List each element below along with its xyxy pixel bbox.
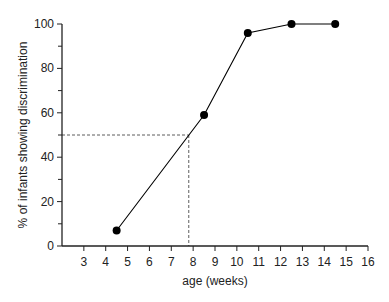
data-point-marker (288, 20, 296, 28)
y-tick-label: 40 (41, 150, 55, 164)
axes: 020406080100345678910111213141516 (34, 17, 375, 269)
y-tick-label: 80 (41, 61, 55, 75)
x-tick-label: 6 (146, 255, 153, 269)
x-tick-label: 12 (274, 255, 288, 269)
data-point-marker (244, 29, 252, 37)
data-point-marker (113, 226, 121, 234)
x-tick-label: 9 (212, 255, 219, 269)
x-tick-label: 13 (296, 255, 310, 269)
x-tick-label: 14 (318, 255, 332, 269)
x-axis-title: age (weeks) (182, 274, 247, 288)
threshold-guides (62, 135, 189, 246)
x-tick-label: 16 (361, 255, 375, 269)
series-line (117, 24, 336, 230)
data-point-marker (200, 111, 208, 119)
x-tick-label: 8 (190, 255, 197, 269)
x-tick-label: 11 (252, 255, 265, 269)
line-chart: 020406080100345678910111213141516 age (w… (0, 0, 389, 302)
x-tick-label: 5 (124, 255, 131, 269)
x-tick-label: 4 (102, 255, 109, 269)
x-tick-label: 7 (168, 255, 175, 269)
x-tick-label: 3 (81, 255, 88, 269)
y-tick-label: 20 (41, 195, 55, 209)
data-series (113, 20, 340, 234)
x-tick-label: 15 (339, 255, 353, 269)
x-tick-label: 10 (230, 255, 244, 269)
y-axis-title: % of infants showing discrimination (16, 42, 30, 229)
data-point-marker (331, 20, 339, 28)
y-tick-label: 60 (41, 106, 55, 120)
y-tick-label: 100 (34, 17, 54, 31)
y-tick-label: 0 (47, 239, 54, 253)
